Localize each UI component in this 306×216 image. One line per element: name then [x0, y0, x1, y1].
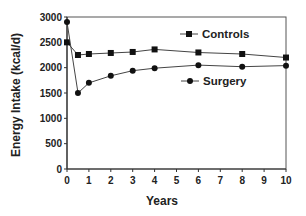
plot-frame: [67, 17, 286, 169]
x-tick-label: 7: [218, 175, 224, 186]
x-axis: 012345678910: [64, 169, 292, 186]
legend-item-surgery: Surgery: [181, 75, 247, 87]
data-point: [283, 55, 289, 61]
x-tick-label: 9: [261, 175, 267, 186]
y-tick-label: 2500: [40, 37, 63, 48]
data-point: [75, 52, 81, 58]
y-axis: 050010001500200025003000: [40, 12, 67, 175]
legend-label: Controls: [202, 28, 249, 40]
line-chart: 050010001500200025003000 012345678910 Co…: [0, 0, 306, 216]
x-tick-label: 1: [86, 175, 92, 186]
x-tick-label: 4: [152, 175, 158, 186]
data-point: [195, 49, 201, 55]
data-point: [108, 50, 114, 56]
x-tick-label: 6: [196, 175, 202, 186]
x-tick-label: 3: [130, 175, 136, 186]
data-point: [239, 51, 245, 57]
data-point: [108, 73, 114, 79]
data-point: [195, 62, 201, 68]
x-tick-label: 0: [64, 175, 70, 186]
legend-marker-icon: [187, 78, 193, 84]
x-tick-label: 10: [280, 175, 292, 186]
y-tick-label: 2000: [40, 62, 63, 73]
plot-border: [67, 17, 286, 169]
y-axis-label: Energy Intake (kcal/d): [9, 33, 23, 157]
data-point: [239, 64, 245, 70]
data-point: [130, 68, 136, 74]
x-axis-label: Years: [146, 194, 178, 208]
legend-item-controls: Controls: [180, 28, 249, 40]
data-point: [152, 46, 158, 52]
y-tick-label: 500: [45, 138, 62, 149]
series-surgery: [64, 19, 289, 96]
x-tick-label: 2: [108, 175, 114, 186]
data-point: [86, 51, 92, 57]
y-tick-label: 1000: [40, 113, 63, 124]
x-tick-label: 8: [239, 175, 245, 186]
legend: ControlsSurgery: [180, 28, 249, 87]
data-point: [86, 80, 92, 86]
x-tick-label: 5: [174, 175, 180, 186]
data-point: [283, 63, 289, 69]
y-tick-label: 3000: [40, 12, 63, 23]
series-controls: [64, 39, 289, 60]
y-tick-label: 0: [56, 164, 62, 175]
legend-label: Surgery: [203, 75, 247, 87]
data-point: [64, 39, 70, 45]
series-group: [64, 19, 289, 96]
data-point: [64, 19, 70, 25]
data-point: [152, 65, 158, 71]
y-tick-label: 1500: [40, 88, 63, 99]
data-point: [75, 90, 81, 96]
data-point: [130, 49, 136, 55]
legend-marker-icon: [186, 31, 192, 37]
